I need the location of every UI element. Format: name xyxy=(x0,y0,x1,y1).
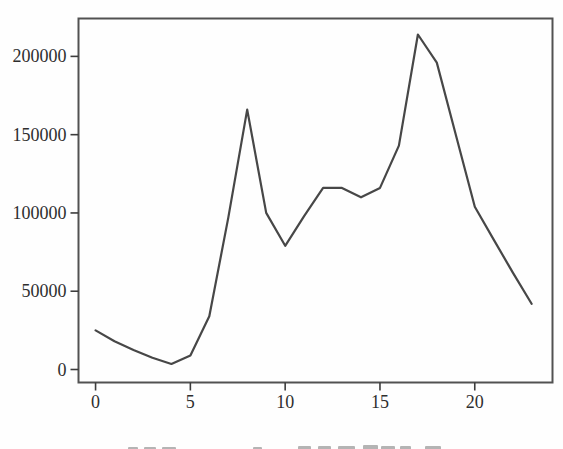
x-axis-tick-label: 20 xyxy=(466,392,484,412)
y-axis-tick-label: 50000 xyxy=(22,281,67,301)
x-axis-tick-label: 0 xyxy=(91,392,100,412)
clipped-caption xyxy=(0,442,563,449)
scanned-figure-page: 05000010000015000020000005101520 xyxy=(0,0,563,449)
x-axis-tick-label: 10 xyxy=(276,392,294,412)
y-axis-tick-label: 100000 xyxy=(13,203,67,223)
x-axis-tick-label: 15 xyxy=(371,392,389,412)
line-chart: 05000010000015000020000005101520 xyxy=(0,0,563,449)
y-axis-tick-label: 200000 xyxy=(13,46,67,66)
y-axis-tick-label: 0 xyxy=(58,360,67,380)
y-axis-tick-label: 150000 xyxy=(13,125,67,145)
data-series-line xyxy=(96,35,532,365)
x-axis-tick-label: 5 xyxy=(186,392,195,412)
caption-glyph-fragment xyxy=(363,445,378,449)
